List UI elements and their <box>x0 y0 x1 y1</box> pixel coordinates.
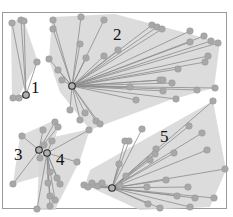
node <box>45 180 52 187</box>
node <box>187 39 194 46</box>
node <box>49 138 56 145</box>
node <box>163 177 170 184</box>
node <box>85 184 92 191</box>
node <box>101 17 108 24</box>
node <box>50 26 57 33</box>
node <box>9 20 16 27</box>
node <box>57 181 64 188</box>
node <box>40 127 47 134</box>
node <box>117 183 124 190</box>
node <box>160 77 167 84</box>
node <box>187 28 194 35</box>
node <box>83 55 90 62</box>
node <box>19 133 26 140</box>
node <box>21 18 28 25</box>
node <box>201 33 208 40</box>
hub-node-5 <box>109 185 116 192</box>
node <box>47 169 54 176</box>
node <box>173 96 180 103</box>
node <box>204 147 211 154</box>
node <box>202 59 209 66</box>
node <box>187 204 194 211</box>
node <box>97 121 104 128</box>
node <box>86 127 93 134</box>
node <box>126 138 133 145</box>
node <box>145 201 152 208</box>
node <box>208 38 215 45</box>
node <box>139 126 146 133</box>
hub-node-3 <box>36 147 43 154</box>
cluster-label-3: 3 <box>14 145 23 164</box>
node <box>101 53 108 60</box>
node <box>37 155 44 162</box>
node <box>10 95 17 102</box>
node <box>205 53 212 60</box>
node <box>211 195 218 202</box>
node <box>77 117 84 124</box>
node <box>175 66 182 73</box>
node <box>199 130 206 137</box>
cluster-hull-4 <box>37 129 90 210</box>
node <box>144 184 151 191</box>
node <box>55 67 62 74</box>
node <box>115 47 122 54</box>
node <box>47 203 54 210</box>
node <box>77 41 84 48</box>
cluster-label-2: 2 <box>113 25 122 44</box>
node <box>55 124 62 131</box>
node <box>116 161 123 168</box>
hub-node-4 <box>44 150 51 157</box>
node <box>210 98 217 105</box>
node <box>123 173 130 180</box>
node <box>192 195 199 202</box>
node <box>133 97 140 104</box>
cluster-diagram: 12345 <box>0 0 233 217</box>
cluster-label-5: 5 <box>160 127 169 146</box>
node <box>59 77 66 84</box>
node <box>159 26 166 33</box>
node <box>78 14 85 21</box>
node <box>10 181 17 188</box>
hub-node-2 <box>69 83 76 90</box>
node <box>215 40 222 47</box>
node <box>160 88 167 95</box>
node <box>34 59 41 66</box>
node <box>174 193 181 200</box>
node <box>127 84 134 91</box>
node <box>99 180 106 187</box>
node <box>194 87 201 94</box>
node <box>171 150 178 157</box>
node <box>212 85 219 92</box>
node <box>74 159 81 166</box>
hub-node-1 <box>23 92 30 99</box>
node <box>50 17 57 24</box>
cluster-label-1: 1 <box>31 78 40 97</box>
node <box>157 205 164 212</box>
node <box>67 107 74 114</box>
node <box>46 56 53 63</box>
node <box>169 80 176 87</box>
node <box>34 206 41 213</box>
node <box>82 110 89 117</box>
node <box>185 184 192 191</box>
node <box>222 166 229 173</box>
node <box>52 197 59 204</box>
node <box>54 175 61 182</box>
node <box>152 151 159 158</box>
cluster-label-4: 4 <box>56 150 65 169</box>
node <box>16 95 23 102</box>
node <box>147 157 154 164</box>
node <box>186 123 193 130</box>
